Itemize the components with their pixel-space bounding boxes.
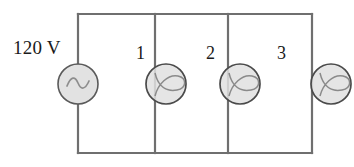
circuit-schematic-canvas [0, 0, 354, 167]
lamp-symbol-3 [311, 64, 351, 104]
circuit-wires [78, 14, 312, 153]
circuit-diagram: 120 V 1 2 3 [0, 0, 354, 167]
ac-source-symbol [58, 64, 98, 104]
lamp-number-label-2: 2 [206, 44, 215, 62]
lamp-symbol-1 [146, 64, 186, 104]
lamp-number-label-1: 1 [136, 44, 145, 62]
lamp-symbol-2 [220, 64, 260, 104]
lamp-number-label-3: 3 [277, 44, 286, 62]
source-voltage-label: 120 V [13, 38, 61, 57]
lamp-circle-3 [311, 64, 351, 104]
lamp-circle-2 [220, 64, 260, 104]
lamp-circle-1 [146, 64, 186, 104]
